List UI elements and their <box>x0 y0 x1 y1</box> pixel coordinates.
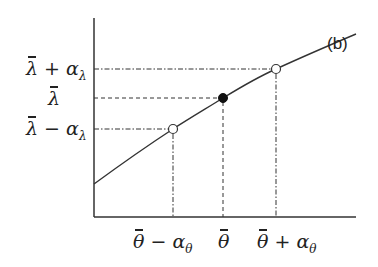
y-label-lower: λ − αλ <box>26 119 87 142</box>
y-label-upper: λ + αλ <box>26 59 87 82</box>
subscript-theta: θ <box>185 242 192 256</box>
subscript-lambda: λ <box>79 129 87 143</box>
alpha: α <box>172 230 185 252</box>
theta-bar: θ <box>257 232 268 251</box>
x-label-upper: θ + αθ <box>257 232 317 255</box>
plus-sign: + <box>275 230 291 252</box>
diagram-figure: (b) λ + αλ λ λ − αλ θ − αθ θ θ + αθ <box>0 0 378 267</box>
minus-sign: − <box>151 230 167 252</box>
subscript-lambda: λ <box>79 69 87 83</box>
upper-point-open-circle <box>272 65 281 74</box>
lower-point-open-circle <box>169 125 178 134</box>
alpha: α <box>296 230 309 252</box>
panel-label: (b) <box>327 35 348 52</box>
plus-sign: + <box>44 57 60 79</box>
alpha: α <box>66 57 79 79</box>
alpha: α <box>66 117 79 139</box>
x-label-mean: θ <box>218 232 229 251</box>
lambda-bar: λ <box>26 119 38 138</box>
minus-sign: − <box>44 117 60 139</box>
response-curve <box>94 34 356 184</box>
theta-bar: θ <box>218 232 229 251</box>
subscript-theta: θ <box>309 242 316 256</box>
lambda-bar: λ <box>26 59 38 78</box>
x-label-lower: θ − αθ <box>133 232 193 255</box>
y-label-mean: λ <box>48 89 60 108</box>
mean-point-filled-circle <box>219 94 228 103</box>
lambda-bar: λ <box>48 89 60 108</box>
theta-bar: θ <box>133 232 144 251</box>
